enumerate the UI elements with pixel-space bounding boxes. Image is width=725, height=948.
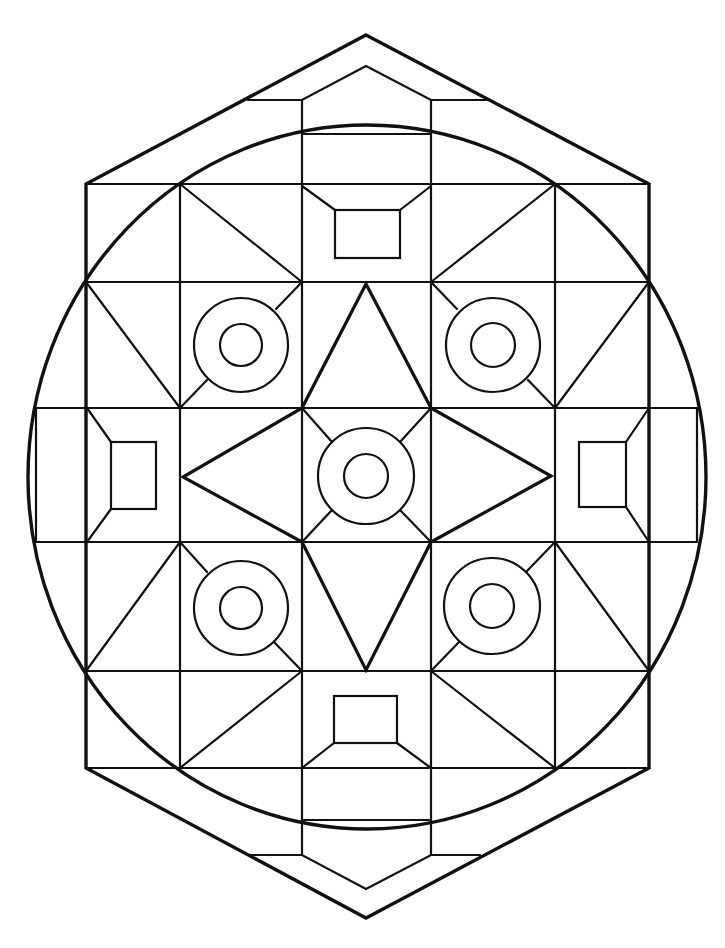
ring-center-inner	[344, 454, 388, 498]
frame-leg	[302, 743, 334, 768]
diagonal-line	[400, 408, 431, 442]
diagonal-line	[526, 542, 555, 572]
diagonal-line	[86, 542, 180, 671]
grid-lines	[36, 100, 697, 855]
framed-rectangles	[87, 186, 649, 768]
ring-bottom-left-outer	[194, 561, 288, 655]
mandala-drawing	[0, 0, 725, 948]
diagonal-line	[555, 542, 649, 671]
diagonal-line	[431, 642, 459, 671]
ring-bottom-right-inner	[470, 584, 514, 628]
diagonal-lines	[86, 184, 649, 768]
ring-bottom-right-outer	[444, 558, 540, 654]
frame-leg	[626, 408, 649, 442]
frame-leg	[302, 186, 335, 210]
diagonal-line	[180, 671, 302, 768]
diagonal-line	[180, 184, 302, 282]
diagonal-line	[400, 510, 431, 542]
four-point-star	[183, 284, 551, 670]
ring-top-right-inner	[471, 323, 515, 367]
concentric-rings	[194, 298, 540, 655]
frame-leg	[400, 186, 431, 210]
bottom-chevron	[250, 855, 480, 889]
diagonal-line	[431, 282, 457, 309]
ring-bottom-left-inner	[220, 587, 262, 629]
frame-leg	[397, 743, 431, 768]
diagonal-line	[276, 282, 302, 309]
outer-hexagon	[86, 35, 649, 918]
diagonal-line	[180, 380, 207, 408]
frame-leg	[87, 509, 111, 542]
inner-chevrons	[248, 66, 490, 889]
diagonal-line	[302, 408, 332, 442]
outer-circle	[28, 125, 706, 829]
diagonal-line	[180, 542, 207, 572]
frame-rect-left	[111, 442, 156, 509]
diagonal-line	[86, 282, 180, 408]
ring-top-left-outer	[194, 298, 288, 392]
diagonal-line	[555, 282, 649, 408]
frame-leg	[626, 507, 649, 542]
diagonal-line	[274, 642, 302, 671]
diagonal-line	[302, 510, 332, 542]
diagonal-line	[431, 671, 555, 768]
frame-rect-right	[579, 442, 626, 507]
frame-rect-top	[335, 210, 400, 258]
frame-leg	[87, 408, 111, 442]
diagonal-line	[528, 380, 555, 408]
frame-rect-bottom	[334, 696, 397, 743]
ring-center-outer	[318, 428, 414, 524]
ring-top-left-inner	[220, 324, 262, 366]
diagonal-line	[431, 184, 555, 282]
ring-top-right-outer	[446, 298, 540, 392]
